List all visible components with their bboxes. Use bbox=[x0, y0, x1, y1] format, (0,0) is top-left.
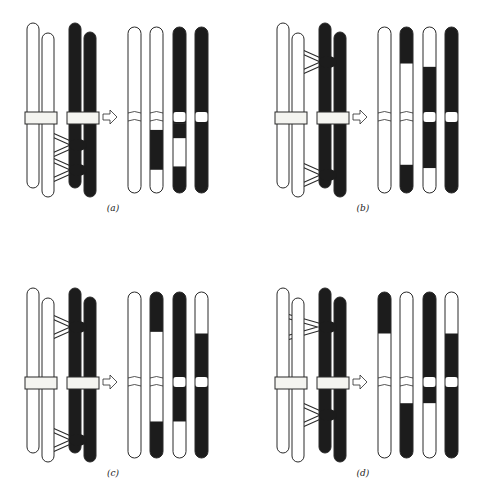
parental-tetrad bbox=[25, 23, 99, 197]
panel-d: (d) bbox=[275, 288, 458, 478]
arrow-right-icon bbox=[353, 110, 367, 124]
centromere-dark bbox=[67, 112, 99, 124]
resulting-chromatids bbox=[378, 27, 458, 194]
resulting-chromatids bbox=[378, 292, 458, 459]
panel-c: (c) bbox=[25, 288, 208, 478]
chromatid-dark-1 bbox=[319, 23, 331, 188]
panel-label-c: (c) bbox=[107, 468, 120, 478]
result-chromatid-1 bbox=[378, 27, 391, 194]
chromatid-dark-1 bbox=[69, 288, 81, 453]
centromere-dark bbox=[317, 112, 349, 124]
centromere-white bbox=[25, 377, 57, 389]
result-chromatid-3 bbox=[173, 27, 186, 194]
parental-tetrad bbox=[25, 288, 99, 462]
panel-label-a: (a) bbox=[107, 203, 120, 213]
centromere-white bbox=[25, 112, 57, 124]
result-chromatid-4 bbox=[445, 27, 458, 194]
result-chromatid-2 bbox=[150, 27, 163, 194]
centromere-white bbox=[275, 377, 307, 389]
chromatid-white-1 bbox=[27, 23, 39, 188]
chiasma-knot bbox=[69, 164, 87, 176]
chromatid-white-1 bbox=[27, 288, 39, 453]
resulting-chromatids bbox=[128, 27, 208, 194]
result-chromatid-2 bbox=[400, 27, 413, 194]
chiasma-knot bbox=[319, 409, 337, 421]
centromere-dark bbox=[317, 377, 349, 389]
chromatid-dark-1 bbox=[69, 23, 81, 188]
result-chromatid-1 bbox=[128, 27, 141, 194]
arrow-right-icon bbox=[103, 375, 117, 389]
result-chromatid-4 bbox=[195, 27, 208, 194]
result-chromatid-1 bbox=[128, 292, 141, 459]
arrow-right-icon bbox=[103, 110, 117, 124]
parental-tetrad bbox=[275, 23, 349, 197]
resulting-chromatids bbox=[128, 292, 208, 459]
chiasma-knot bbox=[319, 321, 337, 333]
chiasma-knot bbox=[69, 139, 87, 151]
chiasma-knot bbox=[319, 169, 337, 181]
chiasma-knot bbox=[69, 434, 87, 446]
chiasma-knot bbox=[69, 321, 87, 333]
result-chromatid-3 bbox=[423, 27, 436, 194]
result-chromatid-3 bbox=[173, 292, 186, 459]
panel-label-d: (d) bbox=[357, 468, 370, 478]
chromatid-white-1 bbox=[277, 23, 289, 188]
centromere-white bbox=[275, 112, 307, 124]
result-chromatid-3 bbox=[423, 292, 436, 459]
result-chromatid-2 bbox=[400, 292, 413, 459]
result-chromatid-2 bbox=[150, 292, 163, 459]
chiasma-knot bbox=[319, 56, 337, 68]
chromatid-dark-1 bbox=[319, 288, 331, 453]
result-chromatid-4 bbox=[445, 292, 458, 459]
centromere-dark bbox=[67, 377, 99, 389]
result-chromatid-1 bbox=[378, 292, 391, 459]
panel-label-b: (b) bbox=[357, 203, 370, 213]
parental-tetrad bbox=[275, 288, 349, 462]
panel-b: (b) bbox=[275, 23, 458, 213]
arrow-right-icon bbox=[353, 375, 367, 389]
panel-a: (a) bbox=[25, 23, 208, 213]
chromatid-white-1 bbox=[277, 288, 289, 453]
result-chromatid-4 bbox=[195, 292, 208, 459]
crossing-over-diagram: (a)(b)(c)(d) bbox=[0, 0, 487, 483]
